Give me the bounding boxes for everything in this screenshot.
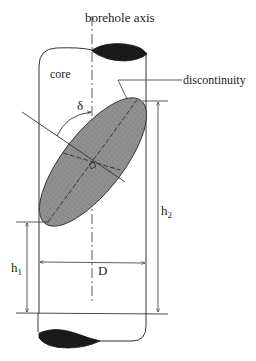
borehole-core-diagram: borehole axis core discontinuity δ h2 h1…: [0, 0, 256, 361]
discontinuity-plane: [21, 82, 164, 242]
discontinuity-leader: [118, 80, 182, 99]
bottom-break-surface: [39, 330, 100, 349]
label-h1: h1: [11, 260, 22, 277]
label-core: core: [50, 67, 71, 81]
label-h2: h2: [161, 203, 172, 220]
label-borehole-axis: borehole axis: [85, 10, 155, 25]
label-discontinuity: discontinuity: [183, 73, 246, 87]
label-diameter: D: [98, 263, 107, 278]
d-dimension-line: [40, 262, 145, 263]
label-delta: δ: [77, 98, 83, 113]
base-reference-line: [16, 313, 168, 314]
top-break-surface: [92, 44, 147, 61]
